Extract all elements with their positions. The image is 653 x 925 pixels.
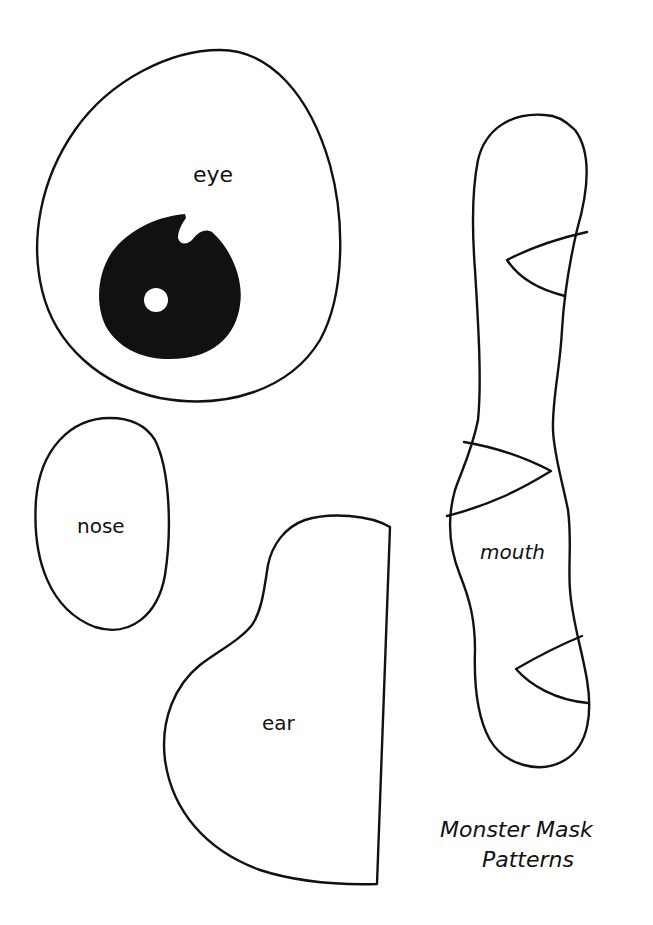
sheet-title-line1: Monster Mask: [440, 816, 593, 844]
mouth-tooth-3: [516, 636, 588, 703]
ear-outline: [164, 516, 390, 885]
mouth-outline: [450, 115, 589, 767]
mouth-tooth-2: [447, 442, 551, 516]
sheet-title-line2: Patterns: [482, 846, 574, 874]
ear-label: ear: [262, 711, 295, 735]
eye-pupil: [99, 214, 241, 359]
eye-label: eye: [193, 162, 233, 187]
pattern-sheet: [0, 0, 653, 925]
eye-highlight: [144, 288, 168, 312]
nose-label: nose: [77, 514, 125, 538]
mouth-label: mouth: [480, 540, 545, 564]
